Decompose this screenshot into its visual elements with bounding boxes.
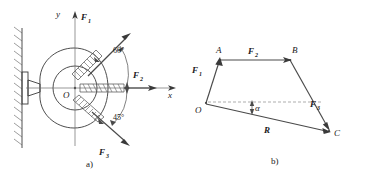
figure-root: F 1 F 2 F 3 O y x 60° 45° a) bbox=[0, 0, 372, 173]
force-f3-rod-marker bbox=[98, 118, 104, 124]
panel-a-group: F 1 F 2 F 3 O y x 60° 45° a) bbox=[14, 9, 176, 169]
vector-f2-label: F bbox=[247, 46, 254, 56]
vector-f1-subscript: 1 bbox=[199, 71, 202, 77]
vertex-a-point bbox=[219, 59, 221, 61]
angle-alpha-label: α bbox=[255, 103, 260, 113]
mechanics-figure: F 1 F 2 F 3 O y x 60° 45° a) bbox=[0, 0, 372, 173]
vector-f1-oa bbox=[206, 62, 219, 103]
vertex-b-label: B bbox=[292, 45, 298, 55]
vector-f3-subscript: 3 bbox=[316, 105, 320, 111]
vector-r-label: R bbox=[263, 125, 270, 135]
origin-label: O bbox=[63, 90, 70, 100]
force-f1-label: F bbox=[80, 12, 87, 22]
y-axis-label: y bbox=[55, 9, 60, 19]
vertex-o-point bbox=[205, 102, 207, 104]
panel-b-caption: b) bbox=[271, 156, 279, 166]
vertex-c-label: C bbox=[334, 128, 341, 138]
angle-alpha-arrow-up bbox=[250, 100, 254, 106]
angle-60-label: 60° bbox=[113, 46, 124, 55]
vertex-c-point bbox=[328, 130, 330, 132]
vertex-a-label: A bbox=[215, 45, 222, 55]
force-f3-arrowhead bbox=[121, 139, 131, 146]
force-f1-subscript: 1 bbox=[88, 18, 91, 24]
bolt-rod-f1 bbox=[72, 50, 102, 80]
force-f3-label: F bbox=[98, 147, 105, 157]
vector-f3-bc bbox=[290, 60, 327, 126]
force-f2-subscript: 2 bbox=[139, 76, 143, 82]
vector-f1-arrowhead bbox=[215, 57, 223, 66]
force-f2-label: F bbox=[132, 70, 139, 80]
vector-f1-label: F bbox=[191, 65, 198, 75]
vertex-b-point bbox=[289, 59, 291, 61]
panel-b-group: A B O C F 1 F 2 F 3 R α b) bbox=[191, 45, 341, 166]
angle-45-arrow-upper bbox=[125, 87, 130, 94]
wall-hatching bbox=[14, 27, 22, 145]
x-axis-label: x bbox=[167, 90, 172, 100]
force-f1-vector bbox=[88, 37, 127, 76]
force-f1-arrowhead bbox=[122, 33, 132, 40]
vertex-o-label: O bbox=[195, 105, 202, 115]
vector-f3-label: F bbox=[309, 99, 316, 109]
panel-a-caption: a) bbox=[86, 159, 93, 169]
vector-f2-subscript: 2 bbox=[254, 52, 258, 58]
angle-45-label: 45° bbox=[113, 113, 124, 122]
force-f3-subscript: 3 bbox=[105, 153, 109, 159]
